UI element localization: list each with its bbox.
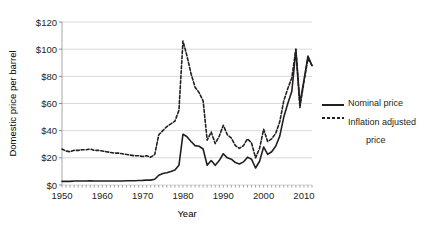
svg-text:Domestic price per barrel: Domestic price per barrel bbox=[7, 50, 18, 156]
svg-text:1960: 1960 bbox=[92, 190, 113, 201]
svg-text:$0: $0 bbox=[46, 180, 57, 191]
svg-text:1990: 1990 bbox=[213, 190, 234, 201]
legend-item-inflation-adjusted-price: Inflation adjusted price bbox=[322, 111, 437, 147]
chart-legend: Nominal price Inflation adjusted price bbox=[322, 98, 437, 148]
svg-text:$120: $120 bbox=[36, 17, 57, 28]
svg-text:$100: $100 bbox=[36, 44, 57, 55]
svg-text:Year: Year bbox=[177, 208, 196, 219]
svg-text:1950: 1950 bbox=[51, 190, 72, 201]
legend-item-nominal-price: Nominal price bbox=[322, 98, 437, 110]
series-lines bbox=[62, 41, 312, 181]
svg-text:1970: 1970 bbox=[132, 190, 153, 201]
legend-label-inflation-adjusted-price-line2: price bbox=[348, 135, 386, 145]
svg-text:$20: $20 bbox=[41, 152, 57, 163]
legend-label-inflation-adjusted-price: Inflation adjusted bbox=[348, 117, 416, 127]
oil-price-chart: $0$20$40$60$80$100$120 19501960197019801… bbox=[0, 0, 440, 225]
legend-swatch-solid-line-icon bbox=[322, 100, 344, 110]
legend-swatch-dashed-line-icon bbox=[322, 113, 344, 123]
legend-label-nominal-price: Nominal price bbox=[348, 98, 403, 108]
gridlines bbox=[62, 22, 312, 185]
y-tick-labels: $0$20$40$60$80$100$120 bbox=[36, 17, 62, 191]
svg-text:1980: 1980 bbox=[172, 190, 193, 201]
svg-text:2010: 2010 bbox=[293, 190, 314, 201]
svg-text:2000: 2000 bbox=[253, 190, 274, 201]
svg-text:$40: $40 bbox=[41, 125, 57, 136]
svg-text:$60: $60 bbox=[41, 98, 57, 109]
svg-text:$80: $80 bbox=[41, 71, 57, 82]
x-tick-labels: 1950196019701980199020002010 bbox=[51, 190, 314, 201]
